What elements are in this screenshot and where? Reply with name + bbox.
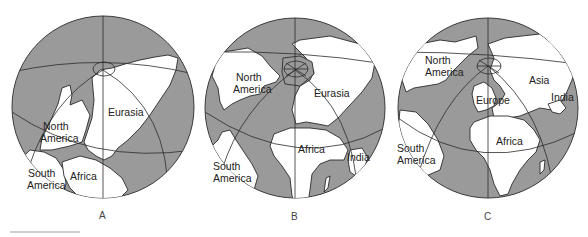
label-b-india: India [347, 151, 370, 163]
label-a-south-america-2: America [27, 179, 66, 191]
label-b-eurasia: Eurasia [314, 87, 350, 99]
label-c-europe: Europe [476, 94, 510, 106]
label-b-africa: Africa [298, 143, 325, 155]
label-c-south-america-1: South [397, 142, 425, 154]
globe-a: Eurasia North America South America Afri… [12, 14, 194, 221]
caption-a: A [99, 210, 106, 221]
figure-caption-rule [10, 231, 80, 233]
label-b-south-america-1: South [213, 160, 241, 172]
globe-b: North America Eurasia Africa India South… [205, 18, 385, 222]
label-c-north-america-1: North [425, 54, 451, 66]
globe-c: North America Asia India Europe Africa S… [397, 18, 578, 222]
label-c-india: India [551, 91, 574, 103]
label-a-south-america-1: South [28, 167, 56, 179]
label-c-south-america-2: America [397, 154, 436, 166]
label-b-south-america-2: America [213, 172, 252, 184]
label-a-north-america-2: America [40, 132, 79, 144]
caption-b: B [291, 211, 298, 222]
caption-c: C [484, 211, 491, 222]
label-a-eurasia: Eurasia [108, 106, 144, 118]
label-c-africa: Africa [496, 135, 523, 147]
label-a-north-america-1: North [43, 120, 69, 132]
label-c-asia: Asia [529, 74, 550, 86]
label-b-north-america-2: America [233, 83, 272, 95]
label-c-north-america-2: America [425, 66, 464, 78]
label-b-north-america-1: North [236, 71, 262, 83]
label-a-africa: Africa [70, 170, 97, 182]
continental-drift-figure: Eurasia North America South America Afri… [0, 0, 588, 237]
